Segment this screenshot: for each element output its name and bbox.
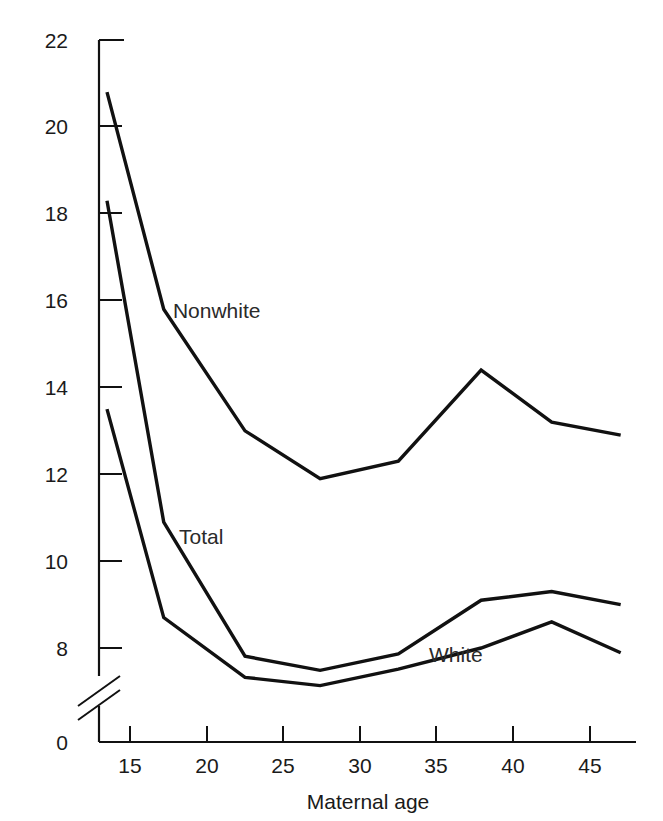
x-axis-tick-labels: 15 20 25 30 35 40 45 (118, 754, 601, 777)
series-line-total (107, 201, 621, 671)
series-label-total: Total (179, 525, 223, 548)
x-label-15: 15 (118, 754, 141, 777)
axes (99, 40, 636, 742)
series-line-nonwhite (107, 92, 621, 479)
y-label-0: 0 (56, 731, 68, 754)
y-label-20: 20 (45, 115, 68, 138)
x-label-30: 30 (348, 754, 371, 777)
data-series-group (107, 92, 621, 685)
series-label-white: White (429, 643, 483, 666)
y-label-12: 12 (45, 463, 68, 486)
x-label-45: 45 (578, 754, 601, 777)
x-axis-ticks (130, 726, 590, 742)
y-label-16: 16 (45, 289, 68, 312)
line-chart-svg: 22 20 18 16 14 12 10 8 0 15 20 25 30 35 (0, 0, 663, 821)
y-label-18: 18 (45, 202, 68, 225)
y-label-10: 10 (45, 550, 68, 573)
chart-figure: 22 20 18 16 14 12 10 8 0 15 20 25 30 35 (0, 0, 663, 821)
x-label-40: 40 (501, 754, 524, 777)
x-label-20: 20 (195, 754, 218, 777)
y-axis-ticks (99, 126, 122, 648)
series-label-nonwhite: Nonwhite (173, 299, 261, 322)
y-axis-tick-labels: 22 20 18 16 14 12 10 8 0 (45, 29, 69, 754)
y-label-8: 8 (56, 637, 68, 660)
y-label-22: 22 (45, 29, 68, 52)
x-label-35: 35 (424, 754, 447, 777)
x-axis-title: Maternal age (307, 790, 430, 813)
x-label-25: 25 (271, 754, 294, 777)
y-label-14: 14 (45, 376, 69, 399)
